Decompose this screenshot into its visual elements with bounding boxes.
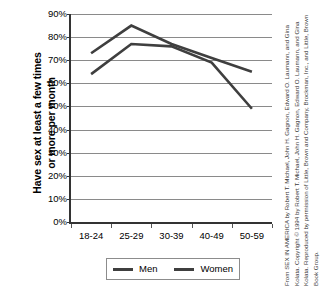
legend-swatch-men-icon [113,268,133,271]
y-axis-tick-label: 90% [48,9,67,19]
legend-label-women: Women [200,264,233,274]
legend-swatch-women-icon [174,268,194,271]
y-axis-tick-label: 80% [48,32,67,42]
x-axis-tick-label: 18-24 [79,230,103,242]
series-line-women [91,44,252,109]
x-axis-tick-mark [192,224,193,228]
y-axis-title-container: Have sex at least a few times or more pe… [0,0,40,250]
y-axis-tick-label: 30% [48,148,67,158]
y-axis-tick-label: 10% [48,194,67,204]
y-axis-tick-label: 40% [48,125,67,135]
chart-legend: Men Women [106,258,240,280]
x-axis-tick-mark [272,224,273,228]
x-axis-tick-label: 50-59 [240,230,264,242]
y-axis-tick-label: 70% [48,55,67,65]
x-axis-tick-mark [111,224,112,228]
series-line-men [91,26,252,72]
legend-item-women: Women [174,264,233,274]
legend-item-men: Men [113,264,157,274]
x-axis-tick-label: 30-39 [159,230,183,242]
attribution-container: From SEX IN AMERICA by Robert T. Michael… [276,0,333,290]
y-axis-tick-label: 50% [48,102,67,112]
x-axis-tick-mark [71,224,72,228]
chart-series-lines [71,14,272,223]
y-axis-tick-label: 60% [48,79,67,89]
x-axis-tick-label: 25-29 [119,230,143,242]
x-axis-tick-mark [151,224,152,228]
y-axis-tick-labels: 0%10%20%30%40%50%60%70%80%90% [40,14,67,222]
y-axis-tick-label: 20% [48,171,67,181]
y-axis-tick-label: 0% [53,217,67,227]
x-axis-tick-labels: 18-2425-2930-3940-4950-59 [71,230,272,246]
x-axis-tick-mark [232,224,233,228]
legend-label-men: Men [139,264,157,274]
chart-plot-area: 0%10%20%30%40%50%60%70%80%90% 18-2425-29… [40,14,272,236]
x-axis-tick-label: 40-49 [200,230,224,242]
attribution-text: From SEX IN AMERICA by Robert T. Michael… [282,6,320,286]
